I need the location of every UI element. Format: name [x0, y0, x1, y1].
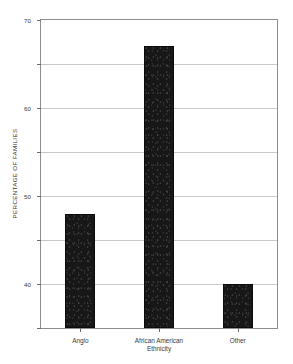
y-axis-tick: 70: [37, 20, 41, 21]
y-axis-tick-label: 40: [24, 281, 31, 288]
plot-inner: 010203040506070: [41, 20, 277, 328]
y-axis-tick-label: 50: [24, 193, 31, 200]
bar-chart-figure: PERCENTAGE OF FAMILIES 010203040506070 A…: [0, 0, 293, 364]
y-axis-tick: 50: [37, 108, 41, 109]
x-axis-tick-label: Anglo: [72, 337, 88, 344]
y-axis-tick: 10: [37, 284, 41, 285]
x-axis-tick-labels: AngloAfrican AmericanOther: [40, 330, 278, 344]
bar: [144, 46, 174, 328]
y-axis-tick-label: 60: [24, 105, 31, 112]
y-axis-tick: 60: [37, 64, 41, 65]
plot-area: 010203040506070: [40, 19, 278, 329]
y-axis-title: PERCENTAGE OF FAMILIES: [8, 19, 22, 328]
y-axis-tick: 0: [37, 328, 41, 329]
y-axis-title-text: PERCENTAGE OF FAMILIES: [12, 129, 19, 219]
x-axis-title: Ethnicity: [40, 345, 278, 352]
y-axis-tick-label: 70: [24, 17, 31, 24]
bar: [65, 214, 95, 328]
x-axis-tick-label: African American: [135, 337, 183, 344]
y-axis-tick: 40: [37, 152, 41, 153]
y-axis-tick: 30: [37, 196, 41, 197]
y-axis-tick: 20: [37, 240, 41, 241]
bar: [223, 284, 253, 328]
x-axis-tick-label: Other: [230, 337, 246, 344]
